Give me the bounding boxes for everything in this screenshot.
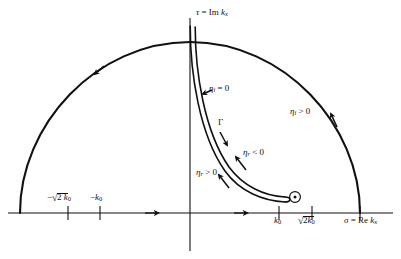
annotation-eta-i-equals-zero: ηi = 0 xyxy=(209,84,229,94)
arrow-arc-upper-left xyxy=(95,66,104,74)
imaginary-axis-label: τ = Im kx xyxy=(196,8,228,18)
tick-label-neg-sqrt2-k0: −2 k0 xyxy=(47,193,71,203)
figure-vector-layer xyxy=(0,0,401,259)
direction-arrows-arc xyxy=(95,66,337,127)
annotation-eta-r-less-zero: ηr < 0 xyxy=(243,148,264,158)
pole-circled-dot xyxy=(290,192,301,203)
real-axis-label: σ = Re kx xyxy=(344,216,377,226)
annotation-contour-gamma: Γ xyxy=(218,118,223,127)
tick-label-sqrt2-k0: 2k0 xyxy=(298,216,315,226)
arrow-cut-up-2 xyxy=(219,175,229,188)
tick-label-k0: k0 xyxy=(274,216,281,226)
arrow-cut-up-1 xyxy=(236,157,246,170)
arrow-cut-down-1 xyxy=(220,132,227,145)
tick-label-neg-k0: −k0 xyxy=(90,193,102,203)
annotation-eta-i-greater-zero: ηi > 0 xyxy=(290,107,310,117)
figure-complex-plane-contour: τ = Im kx σ = Re kx −2 k0 −k0 k0 2k0 ηi … xyxy=(0,0,401,259)
annotation-eta-r-greater-zero: ηr > 0 xyxy=(196,168,217,178)
